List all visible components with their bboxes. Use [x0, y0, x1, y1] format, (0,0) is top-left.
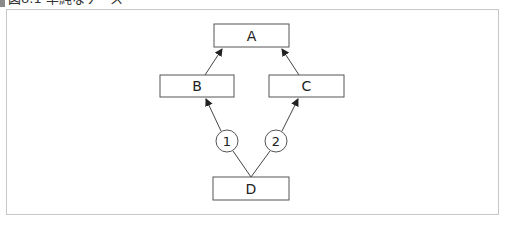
- edges: [205, 49, 299, 177]
- node-d-label: D: [246, 181, 257, 197]
- node-a: A: [214, 24, 289, 47]
- dependency-diagram: A B C D 1 2: [0, 0, 505, 226]
- marker-2: 2: [265, 130, 287, 152]
- edge-b-to-a: [205, 49, 222, 75]
- marker-2-label: 2: [272, 134, 280, 149]
- node-a-label: A: [247, 28, 257, 44]
- edge-c-to-a: [282, 49, 299, 75]
- node-c-label: C: [302, 78, 312, 94]
- node-b-label: B: [192, 78, 202, 94]
- marker-1: 1: [216, 130, 238, 152]
- node-b: B: [160, 75, 234, 97]
- edge-d-to-marker-1: [233, 151, 251, 177]
- edge-d-to-marker-2: [251, 151, 270, 177]
- node-d: D: [213, 177, 289, 200]
- marker-1-label: 1: [223, 134, 231, 149]
- node-c: C: [269, 75, 344, 97]
- edge-marker-2-to-c: [282, 99, 298, 131]
- edge-marker-1-to-b: [206, 99, 221, 131]
